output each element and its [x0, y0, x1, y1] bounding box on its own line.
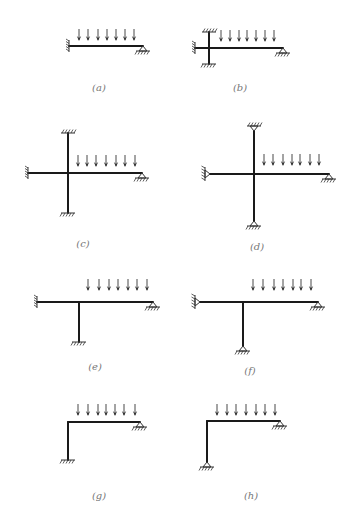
distributed-load-icon [262, 154, 321, 166]
fixed-support-icon [34, 295, 37, 308]
panel-label: (e) [88, 361, 102, 372]
distributed-load-icon [86, 279, 149, 291]
pin-support-icon [275, 48, 290, 57]
pin-support-icon [192, 294, 201, 309]
pin-support-icon [235, 346, 250, 355]
pin-support-icon [135, 46, 150, 55]
panel-label: (f) [244, 365, 256, 376]
pin-support-icon [134, 173, 149, 182]
panel-d: (d) [202, 123, 337, 253]
panel-label: (h) [244, 490, 258, 501]
fixed-support-icon [66, 39, 69, 52]
distributed-load-icon [77, 29, 136, 41]
pin-support-icon [247, 123, 262, 132]
fixed-support-icon [71, 342, 86, 346]
panel-label: (d) [250, 241, 264, 252]
pin-support-icon [202, 166, 211, 181]
distributed-load-icon [76, 155, 137, 167]
panel-g: (g) [60, 404, 147, 501]
pin-support-icon [145, 302, 160, 311]
panel-label: (b) [233, 82, 247, 93]
pin-support-icon [132, 422, 147, 431]
fixed-support-icon [25, 166, 28, 179]
panel-label: (g) [92, 490, 106, 501]
fixed-support-icon [202, 29, 217, 33]
pin-support-icon [246, 221, 261, 230]
fixed-support-icon [61, 130, 76, 134]
fixed-support-icon [60, 460, 75, 464]
panel-c: (c) [25, 130, 149, 250]
panel-a: (a) [66, 29, 150, 93]
panel-f: (f) [192, 279, 326, 376]
panel-label: (c) [76, 238, 90, 249]
panel-e: (e) [34, 279, 160, 372]
distributed-load-icon [251, 279, 313, 291]
panel-b: (b) [192, 29, 290, 94]
panel-label: (a) [92, 82, 106, 93]
distributed-load-icon [219, 30, 276, 42]
pin-support-icon [321, 174, 336, 183]
pin-support-icon [272, 421, 287, 430]
fixed-support-icon [192, 41, 195, 54]
pin-support-icon [310, 302, 325, 311]
distributed-load-icon [215, 404, 277, 416]
distributed-load-icon [76, 404, 137, 416]
fixed-support-icon [201, 64, 216, 68]
pin-support-icon [199, 462, 214, 471]
frame-diagrams: (a) (b) (c) [0, 0, 349, 525]
fixed-support-icon [60, 213, 75, 217]
panel-h: (h) [199, 404, 287, 501]
